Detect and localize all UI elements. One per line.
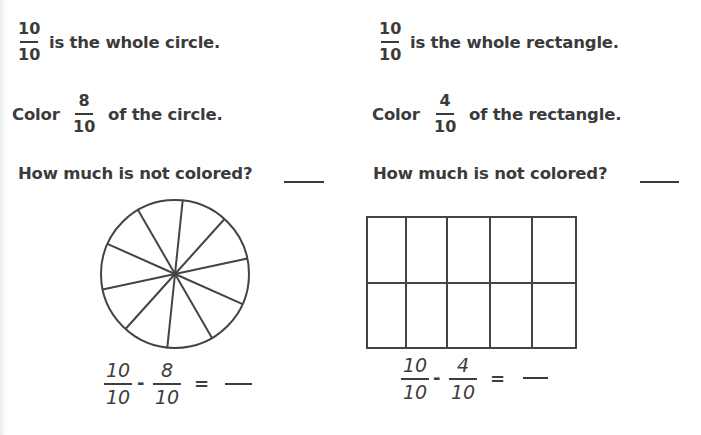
minus-sign: -: [433, 369, 440, 387]
answer-blank[interactable]: [523, 377, 548, 379]
fraction-numerator: 4: [457, 356, 469, 375]
equation-fraction-b: 4 10: [449, 356, 477, 402]
rectangle-diagram: [0, 0, 701, 435]
equation-fraction-a: 10 10: [401, 356, 429, 402]
equals-sign: =: [490, 370, 505, 388]
fraction-bar: [401, 378, 429, 380]
fraction-denominator: 10: [451, 383, 475, 402]
fraction-bar: [449, 378, 477, 380]
fraction-denominator: 10: [403, 383, 427, 402]
fraction-numerator: 10: [403, 356, 427, 375]
